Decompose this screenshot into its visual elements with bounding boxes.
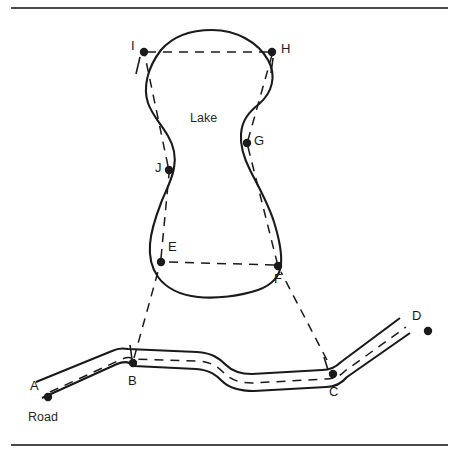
station-dot-h[interactable]: [268, 48, 276, 56]
traverse-segment-G-F: [248, 147, 277, 262]
station-label-a: A: [30, 379, 39, 392]
station-label-c: C: [329, 385, 338, 398]
road-area-label: Road: [28, 411, 58, 424]
road-centerline-dashed: [50, 327, 406, 392]
station-label-d: D: [412, 309, 421, 322]
lake-traverse-dashed-group: [145, 52, 277, 265]
station-label-h: H: [281, 42, 290, 55]
station-dot-b[interactable]: [129, 359, 137, 367]
tick-at-I: [136, 57, 140, 74]
station-label-g: G: [254, 134, 264, 147]
station-label-f: F: [274, 272, 282, 285]
road-group: [36, 318, 410, 398]
station-label-i: I: [131, 39, 135, 52]
station-dot-j[interactable]: [165, 166, 173, 174]
lake-shoreline-outline: [146, 30, 281, 298]
lake-shoreline-group: [146, 30, 281, 298]
station-dot-f[interactable]: [274, 262, 282, 270]
survey-diagram-canvas: [0, 0, 468, 453]
station-dot-d[interactable]: [424, 327, 432, 335]
station-dots-group: [44, 48, 432, 401]
station-dot-c[interactable]: [329, 370, 337, 378]
station-dot-a[interactable]: [44, 393, 52, 401]
station-dot-e[interactable]: [157, 258, 165, 266]
road-edge-north: [36, 318, 400, 382]
tick-at-B: [130, 345, 132, 359]
traverse-segment-H-G: [248, 55, 272, 140]
tie-line-B-E: [134, 268, 159, 358]
station-tick-marks-group: [130, 57, 328, 370]
lake-area-label: Lake: [190, 112, 217, 125]
station-label-j: J: [155, 161, 162, 174]
station-dot-g[interactable]: [243, 139, 251, 147]
traverse-segment-F-E: [165, 262, 274, 265]
station-label-e: E: [168, 240, 177, 253]
station-label-b: B: [128, 374, 137, 387]
figure-page: ABCDEFGHIJ Lake Road: [0, 0, 468, 453]
station-dot-i[interactable]: [140, 48, 148, 56]
tie-line-C-F: [281, 272, 327, 360]
